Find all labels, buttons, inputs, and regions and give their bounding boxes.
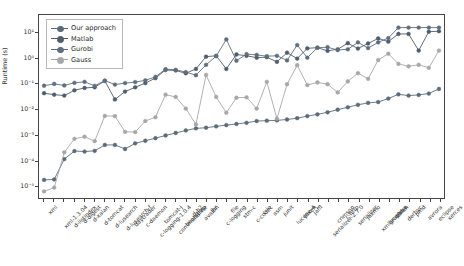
data-point [265, 119, 269, 123]
x-tick-label: junit [282, 204, 295, 217]
legend-marker-icon [51, 23, 68, 33]
data-point [305, 114, 309, 118]
data-point [437, 87, 441, 91]
data-point [83, 80, 87, 84]
data-point [235, 96, 239, 100]
data-point [52, 93, 56, 97]
x-tick-label: asm [271, 204, 284, 217]
x-tick-mark [409, 199, 410, 202]
legend-item-gauss[interactable]: Gauss [51, 55, 116, 66]
x-tick-mark [186, 199, 187, 202]
data-point [143, 119, 147, 123]
x-tick-mark [389, 199, 390, 202]
x-tick-mark [267, 199, 268, 202]
data-point [83, 135, 87, 139]
y-axis-label: Runtime (s) [0, 31, 11, 101]
data-point [437, 49, 441, 53]
data-point [397, 62, 401, 66]
data-point [316, 81, 320, 85]
data-point [103, 114, 107, 118]
legend-item-gurobi[interactable]: Gurobi [51, 44, 116, 55]
x-tick-mark [196, 199, 197, 202]
data-point [73, 88, 77, 92]
data-point [356, 40, 360, 44]
data-point [93, 149, 97, 153]
y-tick-label: 10⁻² [4, 105, 34, 112]
data-point [346, 41, 350, 45]
data-point [93, 84, 97, 88]
data-point [194, 67, 198, 71]
x-tick-mark [155, 199, 156, 202]
data-point [52, 186, 56, 190]
data-point [123, 81, 127, 85]
data-point [326, 110, 330, 114]
x-tick-mark [165, 199, 166, 202]
figure: Runtime (s) 10¹10⁰10⁻¹10⁻²10⁻³10⁻⁴10⁻⁵ x… [0, 0, 464, 266]
data-point [214, 54, 218, 58]
data-point [194, 123, 198, 127]
data-point [133, 80, 137, 84]
data-point [386, 36, 390, 40]
data-point [326, 45, 330, 49]
data-point [245, 52, 249, 56]
data-point [154, 115, 158, 119]
data-point [123, 90, 127, 94]
data-point [407, 94, 411, 98]
data-point [245, 95, 249, 99]
data-point [305, 83, 309, 87]
data-point [73, 149, 77, 153]
data-point [73, 137, 77, 141]
x-tick-label: xml [47, 204, 59, 216]
legend-marker-icon [51, 44, 68, 54]
data-point [326, 82, 330, 86]
x-tick-mark [318, 199, 319, 202]
data-point [164, 67, 168, 71]
x-tick-label: d-h2 [190, 204, 203, 217]
legend-item-our-approach[interactable]: Our approach [51, 23, 116, 34]
x-tick-mark [53, 199, 54, 202]
data-point [346, 80, 350, 84]
x-tick-mark [277, 199, 278, 202]
data-point [336, 48, 340, 52]
data-point [437, 29, 441, 33]
data-point [93, 139, 97, 143]
data-point [376, 40, 380, 44]
x-tick-mark [440, 199, 441, 202]
x-tick-mark [145, 199, 146, 202]
data-point [295, 43, 299, 47]
legend-label: Matlab [71, 35, 93, 43]
data-point [194, 126, 198, 130]
data-point [164, 93, 168, 97]
data-point [265, 80, 269, 84]
data-point [295, 63, 299, 67]
data-point [224, 67, 228, 71]
data-point [113, 143, 117, 147]
data-point [255, 53, 259, 57]
x-tick-mark [175, 199, 176, 202]
y-axis-label-wrap: Runtime (s) [0, 60, 40, 72]
data-point [235, 53, 239, 57]
data-point [346, 47, 350, 51]
data-point [427, 26, 431, 30]
data-point [62, 94, 66, 98]
y-tick-label: 10⁻⁵ [4, 182, 34, 189]
x-tick-mark [338, 199, 339, 202]
data-point [42, 178, 46, 182]
data-point [123, 130, 127, 134]
legend-item-matlab[interactable]: Matlab [51, 34, 116, 45]
data-point [417, 49, 421, 53]
data-point [143, 78, 147, 82]
x-tick-mark [379, 199, 380, 202]
x-tick-mark [297, 199, 298, 202]
x-tick-mark [236, 199, 237, 202]
x-tick-mark [420, 199, 421, 202]
data-point [275, 60, 279, 64]
x-tick-mark [399, 199, 400, 202]
data-point [255, 107, 259, 111]
data-point [427, 30, 431, 34]
x-tick-mark [328, 199, 329, 202]
x-tick-mark [135, 199, 136, 202]
data-point [437, 26, 441, 30]
x-tick-mark [257, 199, 258, 202]
data-point [224, 111, 228, 115]
